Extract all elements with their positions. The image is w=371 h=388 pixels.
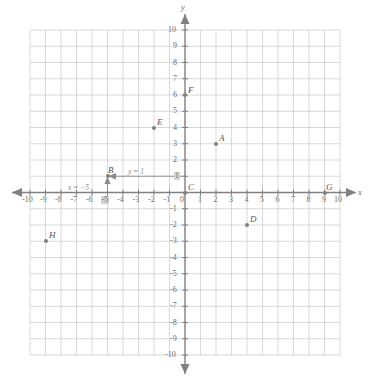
- x-tick-label--9: -9: [40, 196, 47, 204]
- y-tick-label-1: 1: [174, 172, 180, 180]
- x-tick-label-6: 6: [276, 196, 280, 204]
- y-tick-label--7: -7: [170, 302, 177, 310]
- data-point-D[interactable]: [245, 223, 249, 227]
- x-tick-label--5: -5: [101, 196, 110, 204]
- data-point-A[interactable]: [214, 142, 218, 146]
- x-tick-label-5: 5: [260, 196, 264, 204]
- point-label-H: H: [49, 231, 56, 240]
- y-tick-label--4: -4: [170, 254, 177, 262]
- x-tick-label--4: -4: [117, 196, 124, 204]
- point-label-C: C: [188, 183, 194, 192]
- point-label-A: A: [219, 134, 225, 143]
- x-tick-label--1: -1: [164, 196, 171, 204]
- data-point-C[interactable]: [183, 191, 187, 195]
- annotation-label-x-equals-minus-5: x = −5: [68, 184, 89, 192]
- coordinate-plane-figure: -10 -9 -8 -7 -6 -5 -4 -3 -2 -1 0 1 2 3 4…: [0, 0, 371, 388]
- x-tick-label-0: 0: [180, 196, 184, 204]
- y-tick-label-2: 2: [173, 156, 177, 164]
- x-tick-label--10: -10: [22, 196, 33, 204]
- point-label-B: B: [108, 166, 114, 175]
- x-tick-label-1: 1: [198, 196, 202, 204]
- point-label-F: F: [188, 86, 194, 95]
- data-point-H[interactable]: [44, 239, 48, 243]
- y-tick-label--10: -10: [165, 351, 176, 359]
- y-tick-label-9: 9: [173, 42, 177, 50]
- x-tick-label--2: -2: [148, 196, 155, 204]
- annotation-label-y-equals-1: y = 1: [128, 168, 144, 176]
- y-tick-label--8: -8: [170, 319, 177, 327]
- x-tick-label--6: -6: [86, 196, 93, 204]
- y-axis-label: y: [181, 3, 185, 12]
- y-tick-label--6: -6: [170, 286, 177, 294]
- y-tick-label-5: 5: [173, 107, 177, 115]
- y-tick-label--2: -2: [170, 221, 177, 229]
- point-label-G: G: [326, 183, 333, 192]
- x-tick-label-3: 3: [229, 196, 233, 204]
- y-tick-label-10: 10: [168, 26, 176, 34]
- y-tick-label-6: 6: [173, 91, 177, 99]
- point-label-D: D: [250, 215, 257, 224]
- y-tick-label-8: 8: [173, 59, 177, 67]
- x-tick-label--3: -3: [133, 196, 140, 204]
- y-tick-label--3: -3: [170, 237, 177, 245]
- x-tick-label--7: -7: [71, 196, 78, 204]
- x-tick-label-9: 9: [322, 196, 326, 204]
- y-tick-label-3: 3: [173, 140, 177, 148]
- y-tick-label--9: -9: [170, 335, 177, 343]
- y-tick-label--1: -1: [170, 205, 177, 213]
- x-tick-label-4: 4: [245, 196, 249, 204]
- x-axis-label: x: [358, 188, 362, 197]
- y-tick-label-7: 7: [173, 75, 177, 83]
- y-tick-label-4: 4: [173, 124, 177, 132]
- y-tick-label--5: -5: [170, 270, 177, 278]
- x-tick-label-8: 8: [307, 196, 311, 204]
- x-tick-label-10: 10: [334, 196, 342, 204]
- point-label-E: E: [157, 118, 163, 127]
- data-point-E[interactable]: [152, 126, 156, 130]
- x-tick-label-7: 7: [291, 196, 295, 204]
- x-tick-label--8: -8: [55, 196, 62, 204]
- data-point-F[interactable]: [183, 93, 187, 97]
- x-tick-label-2: 2: [214, 196, 218, 204]
